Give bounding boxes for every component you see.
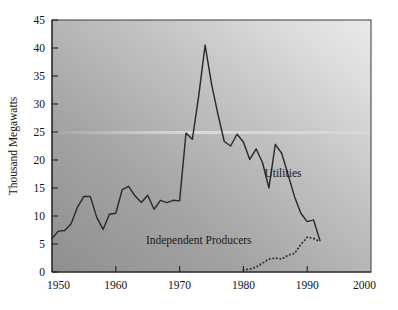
line-chart: 051015202530354045 195019601970198019902… <box>0 0 398 310</box>
x-tick-label: 1960 <box>104 279 127 291</box>
plot-sheen <box>52 131 371 134</box>
y-axis-title: Thousand Megawatts <box>7 96 20 195</box>
y-tick-label: 25 <box>34 126 46 138</box>
x-tick-label: 1970 <box>168 279 191 291</box>
y-tick-label: 10 <box>34 210 46 222</box>
x-tick-label: 1990 <box>296 279 319 291</box>
y-tick-label: 40 <box>34 42 46 54</box>
y-tick-label: 5 <box>39 238 45 250</box>
chart-figure: 051015202530354045 195019601970198019902… <box>0 0 398 310</box>
x-tick-label: 2000 <box>353 279 376 291</box>
y-tick-label: 45 <box>34 14 46 26</box>
x-tick-label: 1980 <box>232 279 255 291</box>
series-annotation-independent-producers: Independent Producers <box>146 234 252 247</box>
y-tick-label: 30 <box>34 98 46 110</box>
y-tick-label: 0 <box>39 266 45 278</box>
y-tick-label: 35 <box>34 70 46 82</box>
y-tick-label: 15 <box>34 182 46 194</box>
y-tick-label: 20 <box>34 154 46 166</box>
series-annotation-utilities: Utilities <box>264 167 302 179</box>
x-tick-label: 1950 <box>47 279 70 291</box>
